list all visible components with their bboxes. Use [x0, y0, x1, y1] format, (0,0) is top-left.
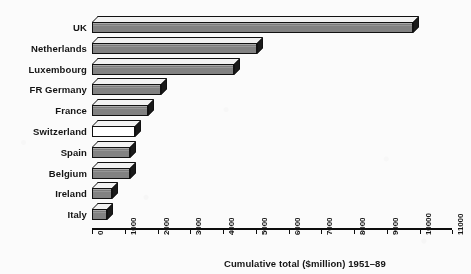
x-axis-tick: [190, 230, 191, 234]
bar-front-face: [92, 168, 130, 179]
x-axis-tick: [125, 230, 126, 234]
x-axis-tick: [420, 230, 421, 234]
bar-switzerland: [92, 120, 141, 137]
bar-chart: UKNetherlandsLuxembourgFR GermanyFranceS…: [0, 0, 471, 274]
bar-front-face: [92, 209, 107, 220]
x-axis-tick-label: 4000: [227, 218, 236, 235]
x-axis-tick-label: 11000: [456, 214, 465, 235]
x-axis-tick-label: 9000: [391, 218, 400, 235]
x-axis-tick-label: 5000: [260, 218, 269, 235]
x-axis-tick: [92, 230, 93, 234]
bar-luxembourg: [92, 58, 240, 75]
x-axis-tick: [321, 230, 322, 234]
x-axis-tick: [289, 230, 290, 234]
x-axis-tick: [354, 230, 355, 234]
bar-front-face: [92, 105, 148, 116]
plot-area: 0100020003000400050006000700080009000100…: [0, 0, 471, 274]
bar-italy: [92, 203, 113, 220]
bar-ireland: [92, 182, 118, 199]
bar-front-face: [92, 64, 234, 75]
x-axis-tick-label: 10000: [424, 213, 433, 235]
bar-front-face: [92, 126, 135, 137]
bar-france: [92, 99, 154, 116]
x-axis-tick: [452, 230, 453, 234]
bar-front-face: [92, 188, 112, 199]
x-axis-tick-label: 8000: [358, 218, 367, 235]
bar-front-face: [92, 147, 130, 158]
bar-belgium: [92, 162, 136, 179]
bar-front-face: [92, 22, 413, 33]
bar-fr-germany: [92, 78, 167, 95]
x-axis-tick-label: 7000: [325, 218, 334, 235]
x-axis-tick-label: 3000: [194, 218, 203, 235]
bar-spain: [92, 141, 136, 158]
bar-front-face: [92, 84, 161, 95]
bar-front-face: [92, 43, 257, 54]
bar-uk: [92, 16, 419, 33]
x-axis-tick-label: 0: [96, 231, 105, 235]
x-axis-title: Cumulative total ($million) 1951–89: [224, 258, 386, 269]
x-axis-tick: [158, 230, 159, 234]
bar-netherlands: [92, 37, 263, 54]
x-axis-tick-label: 1000: [129, 218, 138, 235]
x-axis-tick: [223, 230, 224, 234]
x-axis-tick-label: 6000: [293, 218, 302, 235]
x-axis-tick: [387, 230, 388, 234]
x-axis-tick: [256, 230, 257, 234]
x-axis-tick-label: 2000: [162, 218, 171, 235]
